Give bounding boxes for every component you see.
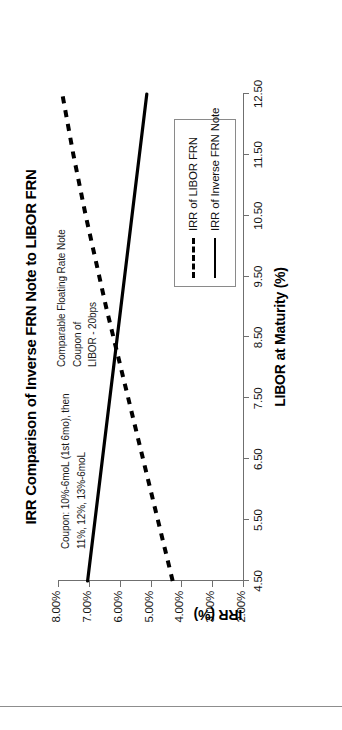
legend-key-solid-icon (210, 238, 220, 278)
legend-key-dashed-icon (188, 238, 198, 278)
legend-entry-libor-frn: IRR of LIBOR FRN (182, 128, 204, 278)
legend-label-inverse-frn-note: IRR of Inverse FRN Note (209, 108, 221, 231)
legend-label-libor-frn: IRR of LIBOR FRN (187, 137, 199, 231)
chart-canvas: IRR Comparison of Inverse FRN Note to LI… (14, 22, 321, 667)
chart-legend: IRR of LIBOR FRN IRR of Inverse FRN Note (174, 119, 236, 287)
series-line-irr-of-inverse-frn-note (88, 94, 147, 581)
legend-entry-inverse-frn-note: IRR of Inverse FRN Note (204, 128, 226, 278)
rotated-chart-container: IRR Comparison of Inverse FRN Note to LI… (14, 22, 321, 667)
page-horizontal-rule (0, 706, 342, 707)
plot-series-layer (14, 22, 321, 667)
